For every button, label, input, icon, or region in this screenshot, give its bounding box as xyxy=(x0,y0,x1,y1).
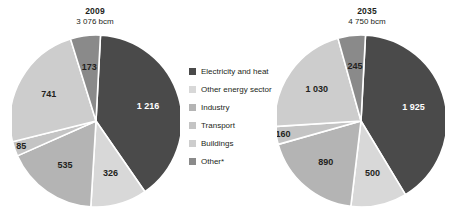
legend-item[interactable]: Electricity and heat xyxy=(189,62,285,80)
legend-item-label: Industry xyxy=(201,103,229,112)
legend-item-label: Electricity and heat xyxy=(201,67,269,76)
chart-title-2035: 2035 xyxy=(285,6,449,16)
pie-chart-2035: 2035 4 750 bcm 1 9255008901601 030245 xyxy=(285,0,449,217)
pie-chart-figure: 2009 3 076 bcm 1 21632653585741173 Elect… xyxy=(0,0,449,217)
slice-value-label: 741 xyxy=(41,89,56,99)
pie-svg-2035: 1 9255008901601 030245 xyxy=(277,32,445,210)
slice-value-label: 535 xyxy=(58,160,73,170)
legend-item[interactable]: Transport xyxy=(189,116,285,134)
slice-value-label: 1 030 xyxy=(306,84,329,94)
pie-svg-2009: 1 21632653585741173 xyxy=(12,32,180,210)
slice-value-label: 1 216 xyxy=(137,101,160,111)
legend-swatch-icon xyxy=(189,140,196,147)
legend-item-label: Transport xyxy=(201,121,235,130)
legend-swatch-icon xyxy=(189,158,196,165)
legend-item-label: Buildings xyxy=(201,139,233,148)
legend-item[interactable]: Other energy sector xyxy=(189,80,285,98)
legend-item[interactable]: Buildings xyxy=(189,134,285,152)
slice-value-label: 85 xyxy=(16,141,26,151)
chart-legend: Electricity and heatOther energy sectorI… xyxy=(189,62,285,170)
legend-item[interactable]: Industry xyxy=(189,98,285,116)
slice-value-label: 500 xyxy=(365,168,380,178)
slice-value-label: 326 xyxy=(103,168,118,178)
legend-swatch-icon xyxy=(189,86,196,93)
slice-value-label: 160 xyxy=(277,129,291,139)
chart-subtitle-2035: 4 750 bcm xyxy=(285,17,449,27)
legend-swatch-icon xyxy=(189,68,196,75)
legend-swatch-icon xyxy=(189,122,196,129)
pie-canvas-2009: 1 21632653585741173 xyxy=(12,32,180,210)
chart-title-2009: 2009 xyxy=(0,6,190,16)
pie-canvas-2035: 1 9255008901601 030245 xyxy=(277,32,445,210)
legend-item[interactable]: Other* xyxy=(189,152,285,170)
slice-value-label: 245 xyxy=(348,61,363,71)
slice-value-label: 1 925 xyxy=(402,102,425,112)
legend-swatch-icon xyxy=(189,104,196,111)
slice-value-label: 890 xyxy=(318,157,333,167)
pie-chart-2009: 2009 3 076 bcm 1 21632653585741173 xyxy=(0,0,190,217)
legend-item-label: Other energy sector xyxy=(201,85,272,94)
legend-item-label: Other* xyxy=(201,157,224,166)
slice-value-label: 173 xyxy=(82,62,97,72)
chart-subtitle-2009: 3 076 bcm xyxy=(0,17,190,27)
